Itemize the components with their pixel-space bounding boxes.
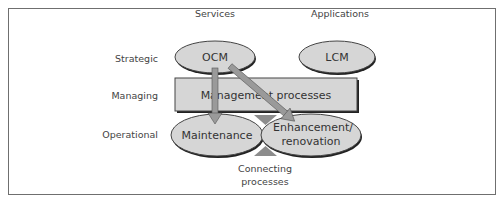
connecting-processes-label-line1: Connecting [238,163,292,174]
row-label-operational: Operational [102,129,158,140]
enhancement-label-line1: Enhancement/ [273,121,353,134]
enhancement-label-line2: renovation [281,135,340,148]
diagram-canvas: Services Applications Strategic Managing… [0,0,502,204]
connecting-processes-label-line2: processes [241,176,288,187]
row-label-strategic: Strategic [115,53,158,64]
lcm-label: LCM [325,51,348,64]
column-label-applications: Applications [311,8,369,19]
column-label-services: Services [195,8,235,19]
ocm-label: OCM [202,51,228,64]
row-label-managing: Managing [111,90,158,101]
maintenance-label: Maintenance [182,129,253,142]
